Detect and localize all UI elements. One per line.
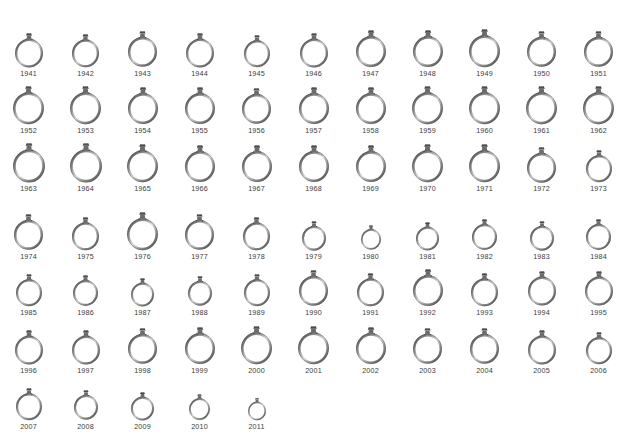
- ring-year-cell[interactable]: 1991: [342, 271, 399, 317]
- ring-year-cell[interactable]: 1986: [57, 273, 114, 317]
- ring-icon: [412, 220, 443, 251]
- ring-year-cell[interactable]: 1962: [570, 84, 627, 135]
- ring-year-cell[interactable]: 1946: [285, 31, 342, 78]
- ring-year-cell[interactable]: 2001: [285, 324, 342, 375]
- ring-year-cell[interactable]: 1944: [171, 31, 228, 78]
- ring-icon: [124, 85, 162, 125]
- ring-icon: [352, 28, 390, 68]
- ring-year-cell[interactable]: 2008: [57, 388, 114, 430]
- ring-year-cell[interactable]: 2002: [342, 325, 399, 375]
- ring-year-cell[interactable]: 1993: [456, 271, 513, 317]
- ring-year-cell[interactable]: 1968: [285, 143, 342, 193]
- ring-year-cell[interactable]: 2011: [228, 396, 285, 431]
- ring-year-cell[interactable]: 1949: [456, 27, 513, 78]
- ring-year-cell[interactable]: 1973: [570, 148, 627, 193]
- ring-year-cell[interactable]: 1978: [228, 215, 285, 261]
- ring-year-cell[interactable]: 2000: [228, 324, 285, 375]
- ring-icon: [69, 273, 102, 307]
- ring-year-cell[interactable]: 1959: [399, 84, 456, 135]
- ring-year-cell[interactable]: 1965: [114, 142, 171, 193]
- ring-icon: [582, 148, 616, 183]
- ring-icon: [523, 145, 560, 183]
- ring-year-label: 1977: [191, 252, 208, 261]
- ring-year-cell[interactable]: 1982: [456, 217, 513, 261]
- ring-icon: [123, 142, 162, 183]
- ring-year-label: 1981: [419, 252, 436, 261]
- ring-year-cell[interactable]: 1977: [171, 212, 228, 260]
- ring-year-label: 1991: [362, 308, 379, 317]
- ring-year-cell[interactable]: 1966: [171, 143, 228, 193]
- ring-year-cell[interactable]: 1950: [513, 29, 570, 77]
- ring-year-cell[interactable]: 1961: [513, 84, 570, 135]
- ring-year-cell[interactable]: 1963: [0, 141, 57, 193]
- ring-row: 1985198619871988198919901991199219931994…: [0, 267, 629, 317]
- ring-icon: [123, 210, 162, 251]
- ring-year-cell[interactable]: 1976: [114, 210, 171, 261]
- ring-year-cell[interactable]: 1971: [456, 142, 513, 193]
- ring-year-cell[interactable]: 1947: [342, 28, 399, 78]
- ring-year-cell[interactable]: 1984: [570, 217, 627, 261]
- ring-year-label: 1999: [191, 366, 208, 375]
- ring-year-cell[interactable]: 1992: [399, 267, 456, 317]
- ring-year-cell[interactable]: 1994: [513, 269, 570, 316]
- ring-year-cell[interactable]: 2003: [399, 326, 456, 374]
- ring-year-cell[interactable]: 1983: [513, 219, 570, 261]
- ring-year-cell[interactable]: 1952: [0, 84, 57, 135]
- ring-year-cell[interactable]: 2007: [0, 386, 57, 431]
- ring-year-label: 1970: [419, 184, 436, 193]
- ring-year-cell[interactable]: 1955: [171, 85, 228, 135]
- ring-year-cell[interactable]: 1985: [0, 272, 57, 317]
- ring-year-cell[interactable]: 1998: [114, 326, 171, 374]
- ring-icon: [352, 325, 390, 365]
- ring-year-cell[interactable]: 1948: [399, 28, 456, 78]
- ring-year-label: 1971: [476, 184, 493, 193]
- ring-icon: [409, 28, 447, 68]
- ring-year-cell[interactable]: 2004: [456, 326, 513, 374]
- ring-year-cell[interactable]: 1956: [228, 86, 285, 134]
- ring-icon: [582, 330, 616, 365]
- ring-year-cell[interactable]: 1943: [114, 29, 171, 77]
- ring-icon: [357, 223, 385, 250]
- ring-year-cell[interactable]: 1969: [342, 143, 399, 193]
- ring-year-cell[interactable]: 1979: [285, 219, 342, 261]
- ring-row: 1996199719981999200020012002200320042005…: [0, 324, 629, 375]
- ring-year-cell[interactable]: 1975: [57, 215, 114, 261]
- ring-year-cell[interactable]: 1954: [114, 85, 171, 135]
- ring-year-cell[interactable]: 1980: [342, 223, 399, 260]
- ring-year-cell[interactable]: 1990: [285, 268, 342, 316]
- ring-year-label: 1950: [533, 69, 550, 78]
- ring-year-cell[interactable]: 1974: [0, 212, 57, 260]
- ring-year-cell[interactable]: 1957: [285, 85, 342, 135]
- ring-year-cell[interactable]: 1942: [57, 32, 114, 78]
- ring-year-cell[interactable]: 1951: [570, 29, 627, 77]
- ring-year-cell[interactable]: 1981: [399, 220, 456, 261]
- ring-year-cell[interactable]: 1987: [114, 276, 171, 317]
- ring-year-label: 2000: [248, 366, 265, 375]
- ring-year-cell[interactable]: 1995: [570, 269, 627, 316]
- ring-year-cell[interactable]: 2010: [171, 392, 228, 431]
- ring-year-cell[interactable]: 1972: [513, 145, 570, 193]
- ring-year-cell[interactable]: 2009: [114, 390, 171, 431]
- ring-year-cell[interactable]: 1988: [171, 274, 228, 316]
- ring-year-cell[interactable]: 1958: [342, 85, 399, 135]
- ring-year-cell[interactable]: 1997: [57, 328, 114, 375]
- ring-year-cell[interactable]: 2005: [513, 328, 570, 375]
- ring-year-cell[interactable]: 1953: [57, 84, 114, 135]
- ring-year-cell[interactable]: 1970: [399, 142, 456, 193]
- ring-year-cell[interactable]: 1960: [456, 84, 513, 135]
- ring-year-cell[interactable]: 1989: [228, 272, 285, 317]
- ring-year-cell[interactable]: 1941: [0, 31, 57, 78]
- ring-year-cell[interactable]: 1996: [0, 328, 57, 375]
- ring-icon: [295, 268, 332, 306]
- ring-year-cell[interactable]: 2006: [570, 330, 627, 375]
- ring-icon: [68, 215, 103, 251]
- ring-year-cell[interactable]: 1999: [171, 325, 228, 375]
- ring-year-label: 1989: [248, 308, 265, 317]
- ring-year-label: 1966: [191, 184, 208, 193]
- ring-year-cell[interactable]: 1945: [228, 33, 285, 78]
- ring-icon: [352, 85, 390, 125]
- ring-year-label: 1965: [134, 184, 151, 193]
- ring-year-grid: 1941194219431944194519461947194819491950…: [0, 0, 629, 445]
- ring-year-cell[interactable]: 1967: [228, 143, 285, 193]
- ring-year-cell[interactable]: 1964: [57, 141, 114, 193]
